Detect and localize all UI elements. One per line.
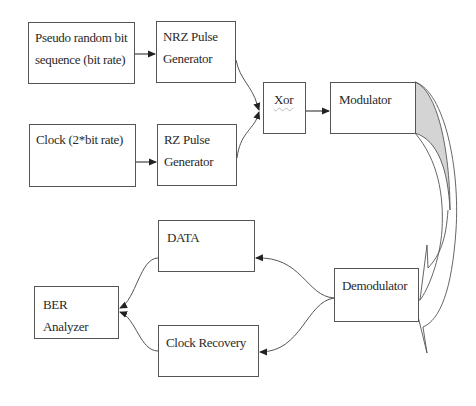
xor-block: Xor — [263, 82, 306, 134]
clock-recovery-label: Clock Recovery — [166, 332, 251, 354]
arrow-rz-to-xor — [237, 112, 259, 158]
rz-pulse-generator-block: RZ Pulse Generator — [157, 124, 237, 186]
ber-analyzer-block: BER Analyzer — [34, 286, 119, 339]
ber-analyzer-label: BER Analyzer — [43, 294, 110, 338]
nrz-label-line2: Generator — [163, 48, 229, 70]
arrow-clockrecovery-to-ber — [120, 312, 158, 351]
arrow-nrz-to-xor — [236, 60, 259, 110]
rz-label-line2: Generator — [164, 151, 230, 173]
data-block: DATA — [158, 220, 255, 272]
xor-label: Xor — [274, 92, 293, 107]
modulator-label: Modulator — [339, 89, 407, 111]
clock-block: Clock (2*bit rate) — [29, 124, 136, 187]
modulator-block: Modulator — [330, 82, 416, 134]
arrow-demodulator-to-clockrecovery — [260, 298, 334, 352]
rz-label-line1: RZ Pulse — [164, 129, 230, 151]
prbs-block: Pseudo random bit sequence (bit rate) — [28, 22, 135, 84]
curved-arrow-inner-notch — [420, 210, 448, 300]
nrz-label-line1: NRZ Pulse — [163, 26, 229, 48]
arrow-data-to-ber — [120, 258, 158, 308]
clock-recovery-block: Clock Recovery — [158, 325, 259, 377]
data-label: DATA — [167, 227, 246, 249]
arrow-demodulator-to-data — [256, 258, 334, 298]
prbs-label-line2: sequence (bit rate) — [35, 49, 128, 71]
demodulator-block: Demodulator — [334, 268, 419, 322]
clock-label: Clock (2*bit rate) — [36, 129, 129, 151]
prbs-label-line1: Pseudo random bit — [35, 27, 128, 49]
curved-arrow-modulator-shaded — [415, 82, 450, 210]
demodulator-label: Demodulator — [342, 275, 411, 297]
nrz-pulse-generator-block: NRZ Pulse Generator — [156, 21, 236, 83]
